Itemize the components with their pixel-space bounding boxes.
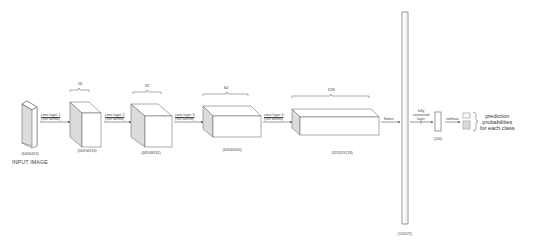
dims-layer-1: (56X56X16): [77, 149, 96, 153]
cnn-architecture-diagram: [0, 0, 545, 244]
dims-layer-4: (32X32X128): [331, 151, 352, 155]
feature-map-cube-4: [292, 109, 379, 135]
fc-dims: (100): [434, 137, 442, 141]
input-title: INPUT IMAGE: [12, 160, 48, 164]
brace-3: [203, 92, 248, 96]
fc-label-line4: 1: [413, 122, 430, 126]
dims-layer-3: (40X40X64): [222, 148, 241, 152]
brace-1: [70, 88, 89, 92]
input-dims: (64X64X3): [21, 152, 38, 156]
filter-count-4: 128: [328, 88, 335, 92]
filter-count-3: 64: [224, 86, 229, 90]
flatten-dims: (131072): [398, 232, 412, 236]
brace-2: [133, 90, 161, 94]
flatten-vector-bar: [402, 12, 408, 224]
flatten-label: flatten: [384, 117, 394, 121]
conv-label-2: conv layer 2 (9x9 kernel): [105, 114, 124, 122]
feature-map-cube-1: [70, 102, 101, 147]
filter-count-2: 32: [145, 84, 150, 88]
output-brace: [473, 112, 478, 131]
conv-label-1: conv layer 1 (9x9 kernel): [41, 114, 60, 122]
kernel-1-text: (9x9 kernel): [41, 118, 60, 122]
feature-map-cube-2: [131, 104, 172, 147]
input-image-slab: [22, 101, 37, 148]
kernel-3-text: (9x9 kernel): [175, 118, 194, 122]
fc-label: fully connected layer 1: [413, 110, 430, 126]
conv-label-4: conv layer 4 (9x9 kernel): [264, 114, 283, 122]
output-probability-icon: [463, 113, 470, 129]
softmax-label: softmax: [446, 117, 459, 121]
fc-layer-bar: [435, 112, 441, 131]
dims-layer-2: (48X48X32): [141, 151, 160, 155]
kernel-2-text: (9x9 kernel): [105, 118, 124, 122]
kernel-4-text: (9x9 kernel): [264, 118, 283, 122]
prediction-line3: for each class: [480, 125, 515, 131]
brace-4: [292, 94, 369, 98]
conv-label-3: conv layer 3 (9x9 kernel): [175, 114, 194, 122]
feature-map-cube-3: [203, 106, 261, 137]
filter-count-1: 16: [78, 82, 83, 86]
prediction-text: prediction probabilities for each class: [480, 113, 515, 132]
